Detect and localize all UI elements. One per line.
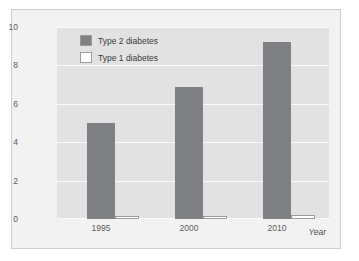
bar-type2-2000 (175, 87, 203, 220)
chart-figure: Numbers (millions) 0 2 4 6 8 10 Type 2 d… (11, 9, 341, 249)
bar-type1-1995 (115, 216, 139, 220)
legend-item-type-2-diabetes: Type 2 diabetes (80, 33, 158, 48)
x-tick-1995: 1995 (71, 223, 131, 233)
x-axis-title: Year (309, 227, 327, 237)
legend-item-type-1-diabetes: Type 1 diabetes (80, 50, 158, 65)
plot-area: Type 2 diabetes Type 1 diabetes (57, 27, 329, 219)
gridline-10 (57, 27, 329, 28)
bar-type2-2010 (263, 42, 291, 219)
legend-swatch-type-2-diabetes (80, 35, 92, 46)
y-tick-8: 8 (0, 60, 18, 70)
chart-legend: Type 2 diabetes Type 1 diabetes (80, 33, 158, 67)
legend-label-type-1-diabetes: Type 1 diabetes (98, 53, 158, 63)
bar-type1-2010 (291, 215, 315, 220)
y-tick-10: 10 (0, 22, 18, 32)
legend-swatch-type-1-diabetes (80, 52, 92, 63)
legend-label-type-2-diabetes: Type 2 diabetes (98, 36, 158, 46)
y-tick-4: 4 (0, 137, 18, 147)
x-tick-2010: 2010 (247, 223, 307, 233)
bar-type1-2000 (203, 216, 227, 220)
y-tick-6: 6 (0, 99, 18, 109)
x-tick-2000: 2000 (159, 223, 219, 233)
bar-type2-1995 (87, 123, 115, 219)
y-tick-2: 2 (0, 176, 18, 186)
y-tick-0: 0 (0, 214, 18, 224)
